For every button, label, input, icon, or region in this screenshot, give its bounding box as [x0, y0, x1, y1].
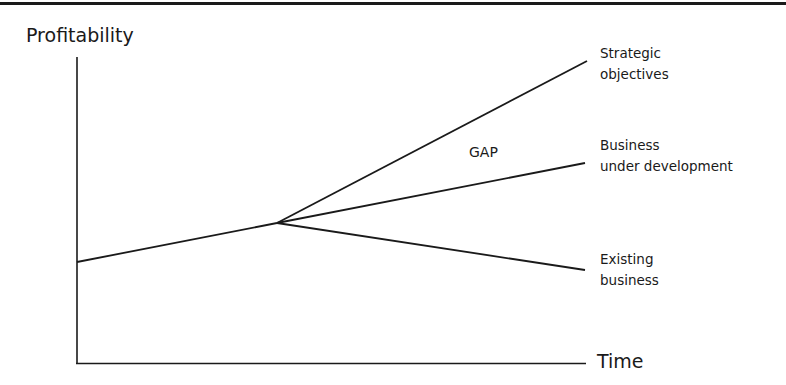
- line-existing-business: [277, 223, 585, 270]
- line-business-under-development: [277, 163, 585, 223]
- label-business-under-development: Business under development: [600, 135, 733, 177]
- label-strategic-objectives: Strategic objectives: [600, 43, 669, 85]
- label-strategic-line-1: Strategic: [600, 43, 669, 64]
- label-strategic-line-2: objectives: [600, 64, 669, 85]
- line-existing-trend: [77, 223, 277, 262]
- label-existing-business: Existing business: [600, 249, 659, 291]
- label-business-line-1: Business: [600, 135, 733, 156]
- gap-annotation: GAP: [469, 144, 498, 160]
- label-existing-line-2: business: [600, 270, 659, 291]
- y-axis-title: Profitability: [26, 24, 134, 46]
- line-strategic-objectives: [277, 61, 587, 223]
- label-existing-line-1: Existing: [600, 249, 659, 270]
- x-axis-title: Time: [597, 350, 644, 372]
- label-business-line-2: under development: [600, 156, 733, 177]
